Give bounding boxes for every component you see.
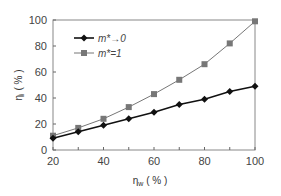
legend-label: m*=1 [98,48,122,59]
y-axis-label: ηi ( % ) [13,69,25,100]
legend-item: m*→0 [74,33,126,44]
line-chart: 020406080100 20406080100 m*→0m*=1 ηw ( %… [0,0,281,196]
square-marker [176,77,182,83]
y-tick-label: 40 [35,92,47,104]
diamond-marker [252,83,259,90]
series-m-equals-1 [50,18,258,138]
x-axis-label: ηw ( % ) [133,175,168,187]
x-tick-label: 100 [246,155,264,167]
x-axis-label-unit: ( % ) [143,175,167,186]
legend: m*→0m*=1 [74,33,126,59]
diamond-legend-icon [81,35,88,42]
diamond-marker [226,88,233,95]
x-tick-label: 80 [198,155,210,167]
square-marker [151,91,157,97]
y-tick-label: 100 [29,14,47,26]
diamond-marker [125,115,132,122]
square-marker [227,40,233,46]
series-layer [50,18,259,142]
y-tick-label: 80 [35,40,47,52]
square-marker [101,116,107,122]
y-tick-label: 20 [35,118,47,130]
square-marker [126,104,132,110]
diamond-marker [176,101,183,108]
diamond-marker [151,109,158,116]
legend-item: m*=1 [74,48,122,59]
square-marker [252,18,258,24]
diamond-marker [201,96,208,103]
square-legend-icon [81,50,87,56]
y-axis-label-unit: ( % ) [13,69,24,93]
legend-label: m*→0 [98,33,126,44]
y-tick-label: 60 [35,66,47,78]
square-marker [202,61,208,67]
x-tick-label: 60 [148,155,160,167]
x-tick-label: 40 [97,155,109,167]
diamond-marker [100,122,107,129]
x-tick-label: 20 [47,155,59,167]
